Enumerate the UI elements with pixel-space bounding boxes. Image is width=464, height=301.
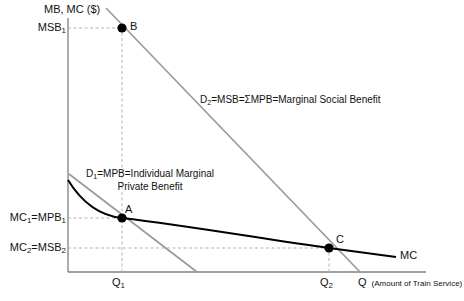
x-axis-label-note: (Amount of Train Service): [372, 279, 463, 288]
x-axis-label: Q(Amount of Train Service): [358, 276, 462, 289]
y-tick-mc2-eq: =MSB: [31, 241, 61, 253]
y-tick-mc2: MC2=MSB2: [0, 241, 66, 255]
y-tick-msb1-sub: 1: [62, 26, 66, 35]
y-tick-msb1-main: MSB: [38, 21, 62, 33]
point-label-a: A: [125, 203, 132, 216]
d2-curve-label: D2=MSB=ΣMPB=Marginal Social Benefit: [200, 94, 381, 107]
mc-curve-label: MC: [400, 249, 417, 262]
d1-curve-label-line2: Private Benefit: [117, 181, 182, 192]
x-tick-q1-sub: 1: [121, 281, 125, 290]
y-tick-mc1: MC1=MPB1: [0, 211, 66, 225]
x-tick-q1: Q1: [112, 276, 125, 290]
d2-curve-label-rest: =MSB=ΣMPB=Marginal Social Benefit: [211, 94, 380, 105]
y-axis-title: MB, MC ($): [44, 3, 100, 16]
diagram-canvas: [0, 0, 464, 301]
x-tick-q1-main: Q: [112, 276, 121, 288]
point-b-marker: [117, 23, 126, 32]
d1-curve-label: D1=MPB=Individual MarginalPrivate Benefi…: [72, 168, 228, 193]
y-tick-mc1-eq-sub: 1: [62, 216, 66, 225]
x-tick-q2-sub: 2: [329, 281, 333, 290]
y-tick-mc1-main: MC: [10, 211, 27, 223]
point-label-b: B: [130, 20, 137, 33]
economics-diagram-figure: MB, MC ($) MSB1 MC1=MPB1 MC2=MSB2 Q1 Q2 …: [0, 0, 464, 301]
x-tick-q2: Q2: [320, 276, 333, 290]
point-label-c: C: [336, 233, 344, 246]
y-tick-mc1-eq: =MPB: [31, 211, 61, 223]
y-tick-mc2-eq-sub: 2: [62, 246, 66, 255]
x-axis-label-main: Q: [358, 276, 367, 288]
y-tick-mc2-main: MC: [10, 241, 27, 253]
point-c-marker: [324, 243, 333, 252]
y-tick-msb1: MSB1: [8, 21, 66, 35]
d1-curve-label-line1: D1=MPB=Individual Marginal: [86, 168, 214, 179]
d1-curve-label-rest: =MPB=Individual Marginal: [97, 168, 214, 179]
x-tick-q2-main: Q: [320, 276, 329, 288]
